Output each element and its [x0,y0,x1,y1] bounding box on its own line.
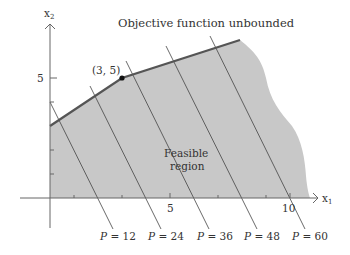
iso-label-p48: P = 48 [243,230,280,242]
x-tick-5: 5 [167,202,174,214]
unbounded-lp-diagram: Objective function unbounded (3, 5) Feas… [0,0,350,255]
y-axis-label: x2 [44,7,54,21]
point-label: (3, 5) [92,64,120,76]
region-label-line2: region [170,160,205,172]
vertex-point [119,75,124,80]
diagram-title: Objective function unbounded [118,16,295,30]
x-axis-label: x1 [322,192,332,206]
iso-label-p36: P = 36 [196,230,233,242]
x-tick-10: 10 [282,202,295,214]
feasible-region [50,40,310,198]
region-label-line1: Feasible [164,147,208,159]
iso-label-p12: P = 12 [99,230,136,242]
y-tick-5: 5 [37,72,44,84]
iso-label-p24: P = 24 [147,230,184,242]
iso-label-p60: P = 60 [291,230,328,242]
